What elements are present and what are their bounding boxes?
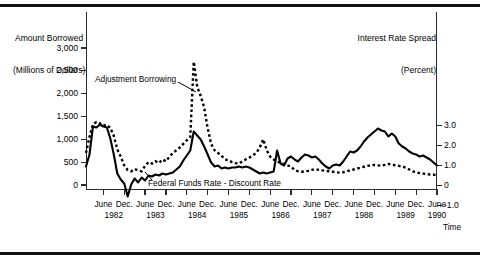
figure-chart-discount-window-borrowing: Amount Borrowed (Millions of Dollars) In… (0, 0, 480, 259)
annotation-federal-funds-spread: Federal Funds Rate - Discount Rate (148, 178, 281, 188)
adjustment-borrowing-leader (178, 82, 196, 92)
x-axis-title: Time (443, 222, 461, 232)
annotation-adjustment-borrowing: Adjustment Borrowing (95, 74, 176, 84)
annotation-leader-layer (0, 0, 480, 259)
